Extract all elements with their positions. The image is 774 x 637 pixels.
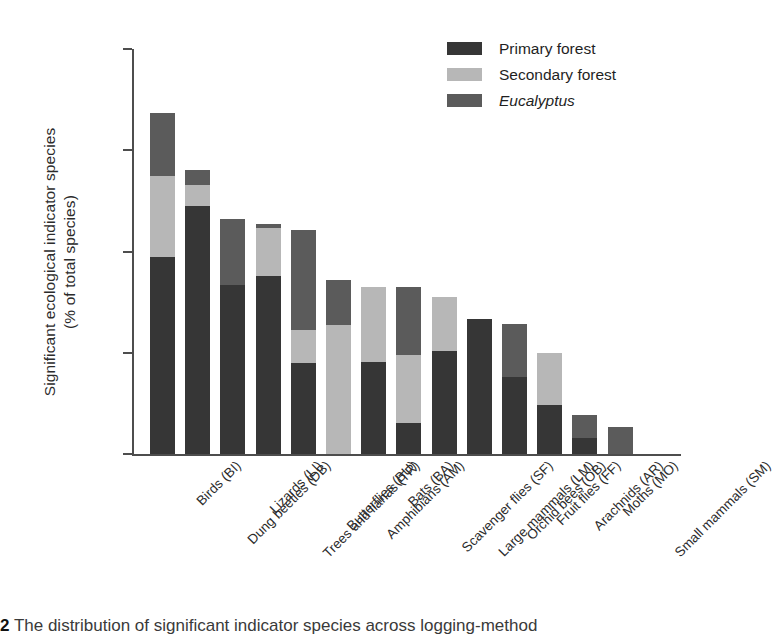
caption-text: The distribution of significant indicato…	[14, 616, 538, 635]
bar-fruit-flies-ff	[502, 324, 527, 454]
legend-swatch-secondary-forest	[447, 68, 482, 81]
bar-trees-and-lianas-tr	[256, 224, 281, 454]
legend-label-secondary-forest: Secondary forest	[499, 66, 616, 83]
bar-segment-secondary-forest	[291, 330, 316, 362]
legend-swatch-primary-forest	[447, 42, 482, 55]
bar-bats-ba	[361, 287, 386, 454]
y-tick-20	[123, 251, 132, 253]
caption-number: 2	[0, 616, 9, 635]
bar-segment-primary-forest	[291, 363, 316, 454]
bar-segment-primary-forest	[537, 405, 562, 454]
y-tick-0	[123, 453, 132, 455]
bar-birds-bi	[150, 113, 175, 454]
legend: Primary forestSecondary forestEucalyptus	[447, 36, 697, 114]
y-tick-30	[123, 149, 132, 151]
y-axis-label: Significant ecological indicator species…	[30, 62, 90, 462]
bar-segment-primary-forest	[467, 319, 492, 454]
bar-segment-secondary-forest	[396, 355, 421, 423]
x-axis-tick-labels: Birds (BI)Dung beetles (DB)Lizards (LI)T…	[132, 458, 692, 633]
bar-segment-eucalyptus	[326, 280, 351, 326]
bar-segment-secondary-forest	[256, 228, 281, 276]
bar-segment-eucalyptus	[256, 224, 281, 228]
bar-segment-eucalyptus	[291, 230, 316, 330]
legend-item-primary-forest: Primary forest	[447, 36, 697, 60]
bar-segment-eucalyptus	[185, 170, 210, 185]
bar-orchid-bees-ob	[467, 319, 492, 454]
bar-segment-eucalyptus	[608, 427, 633, 454]
bar-segment-primary-forest	[361, 362, 386, 454]
bar-arachnids-ar	[537, 353, 562, 454]
bar-segment-eucalyptus	[502, 324, 527, 377]
y-axis-label-line-2: (% of total species)	[60, 195, 80, 329]
y-tick-10	[123, 352, 132, 354]
bar-segment-primary-forest	[572, 438, 597, 454]
bar-segment-eucalyptus	[396, 287, 421, 355]
figure-caption: 2 The distribution of significant indica…	[0, 614, 711, 637]
bar-lizards-li	[220, 219, 245, 454]
x-tick-label-lizards-li: Lizards (LI)	[267, 458, 325, 516]
legend-label-primary-forest: Primary forest	[499, 40, 595, 57]
bar-segment-primary-forest	[432, 351, 457, 454]
x-tick-label-birds-bi: Birds (BI)	[193, 458, 243, 508]
bar-segment-secondary-forest	[361, 287, 386, 362]
x-tick-label-small-mammals-sm: Small mammals (SM)	[672, 458, 774, 560]
bar-segment-secondary-forest	[537, 353, 562, 406]
bar-segment-primary-forest	[502, 377, 527, 454]
bar-segment-primary-forest	[150, 257, 175, 454]
bar-scavenger-flies-sf	[396, 287, 421, 454]
legend-item-eucalyptus: Eucalyptus	[447, 88, 697, 112]
bar-butterflies-bu	[291, 230, 316, 454]
x-axis-line	[132, 454, 681, 456]
y-axis-label-line-1: Significant ecological indicator species	[40, 128, 60, 397]
bar-amphibians-am	[326, 280, 351, 454]
bar-segment-secondary-forest	[432, 297, 457, 351]
legend-swatch-eucalyptus	[447, 94, 482, 107]
bar-segment-secondary-forest	[326, 325, 351, 454]
y-tick-40	[123, 48, 132, 50]
bar-segment-primary-forest	[220, 285, 245, 454]
bar-large-mammals-lm	[432, 297, 457, 454]
bar-segment-eucalyptus	[220, 219, 245, 285]
bar-segment-primary-forest	[396, 423, 421, 454]
bar-segment-secondary-forest	[150, 176, 175, 257]
bar-segment-secondary-forest	[185, 185, 210, 206]
bar-dung-beetles-db	[185, 170, 210, 455]
bar-small-mammals-sm	[608, 427, 633, 454]
bar-segment-primary-forest	[256, 276, 281, 454]
legend-item-secondary-forest: Secondary forest	[447, 62, 697, 86]
bar-moths-mo	[572, 415, 597, 454]
bar-segment-eucalyptus	[572, 415, 597, 438]
bar-segment-eucalyptus	[150, 113, 175, 176]
bar-segment-primary-forest	[185, 206, 210, 454]
legend-label-eucalyptus: Eucalyptus	[499, 92, 575, 109]
